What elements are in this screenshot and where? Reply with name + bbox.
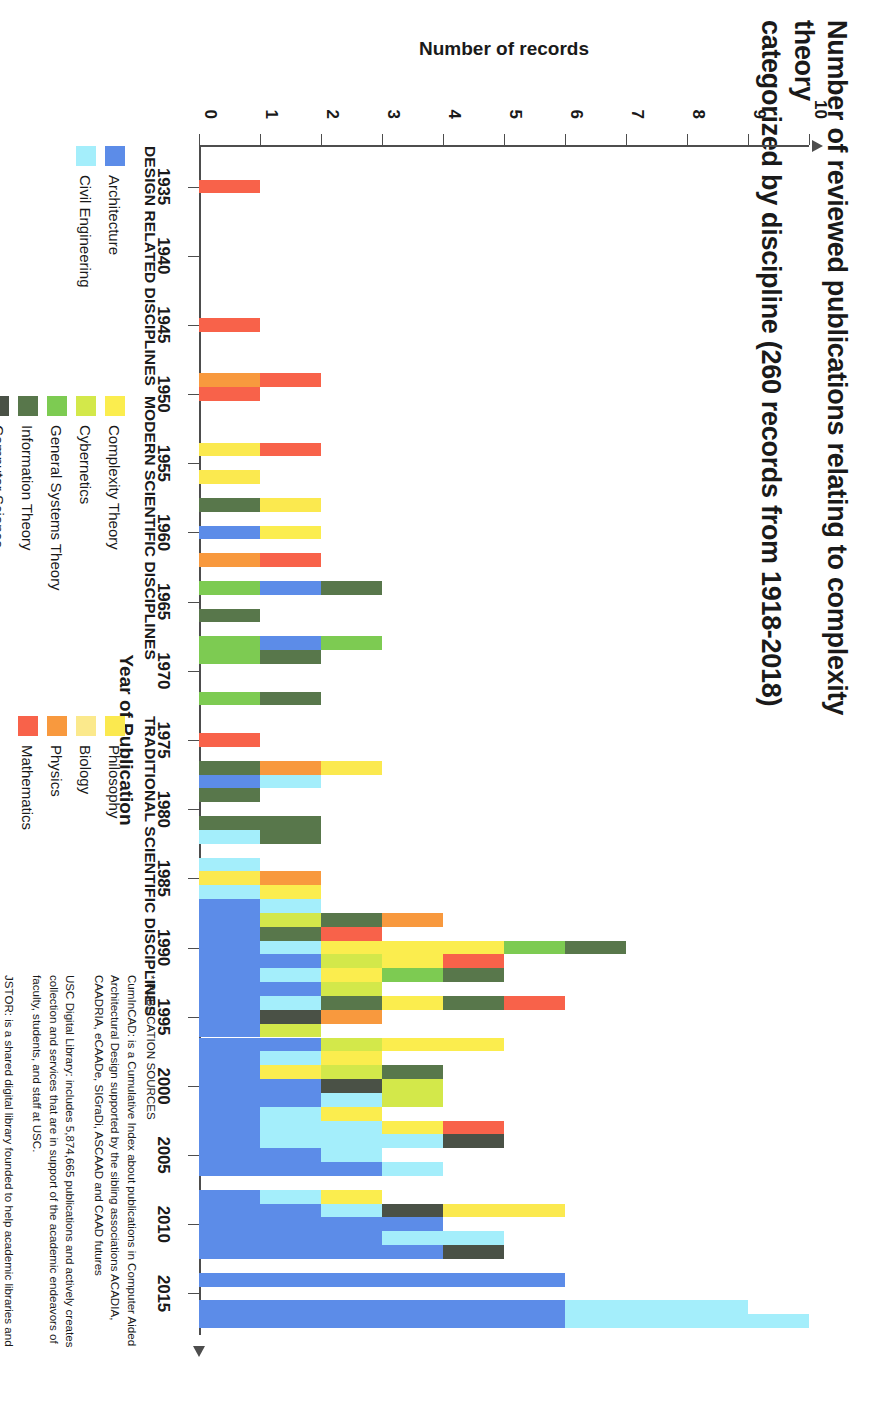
- publication-sources: * PUBLICATION SOURCESCumInCAD: is a Cumu…: [0, 975, 159, 1375]
- bar-segment: [199, 373, 260, 387]
- bar-segment: [443, 996, 504, 1010]
- bar-segment: [199, 1079, 321, 1093]
- bar: [199, 927, 382, 941]
- x-tick: [188, 602, 199, 603]
- bar-segment: [260, 1051, 321, 1065]
- bar-segment: [260, 443, 321, 457]
- y-tick-label: 5: [505, 110, 525, 119]
- bar: [199, 1314, 809, 1328]
- bar-segment: [199, 1148, 321, 1162]
- bar-segment: [321, 1038, 382, 1052]
- legend-swatch-icon: [105, 396, 125, 416]
- bar-segment: [321, 941, 504, 955]
- y-tick: [443, 134, 444, 145]
- bar-segment: [260, 927, 321, 941]
- x-tick: [188, 671, 199, 672]
- y-tick-label: 4: [444, 110, 464, 119]
- bar-segment: [565, 1314, 809, 1328]
- legend-swatch-icon: [0, 396, 9, 416]
- bar-segment: [199, 761, 260, 775]
- bar: [199, 1051, 382, 1065]
- bar-segment: [321, 996, 382, 1010]
- bar-segment: [260, 1024, 321, 1038]
- bar-segment: [199, 1107, 260, 1121]
- legend-item-label: Complexity Theory: [107, 425, 124, 550]
- sources-heading: * PUBLICATION SOURCES: [143, 975, 159, 1375]
- bar: [199, 581, 382, 595]
- bar: [199, 1065, 443, 1079]
- bar-segment: [260, 996, 321, 1010]
- y-tick: [809, 134, 810, 145]
- bar-segment: [199, 1134, 260, 1148]
- bar-segment: [199, 1038, 321, 1052]
- legend-item-label: Cybernetics: [78, 425, 95, 504]
- legend-item[interactable]: General Systems Theory: [47, 396, 67, 716]
- bar-segment: [199, 885, 260, 899]
- bar: [199, 871, 321, 885]
- x-tick: [188, 809, 199, 810]
- bar-segment: [382, 954, 443, 968]
- bar: [199, 1300, 748, 1314]
- bar: [199, 1079, 443, 1093]
- bar-segment: [199, 318, 260, 332]
- bar-segment: [321, 1190, 382, 1204]
- chart-canvas: Number of reviewed publications relating…: [0, 0, 869, 1403]
- bar-segment: [199, 180, 260, 194]
- bar: [199, 180, 260, 194]
- bar: [199, 761, 382, 775]
- y-tick: [748, 134, 749, 145]
- bar-segment: [199, 1051, 260, 1065]
- bar-segment: [260, 650, 321, 664]
- legend-item[interactable]: Computer Science: [0, 396, 9, 716]
- bar: [199, 1148, 382, 1162]
- bar-segment: [199, 1190, 260, 1204]
- bar: [199, 443, 321, 457]
- legend-group: MODERN SCIENTIFIC DISCIPLINESComplexity …: [0, 396, 159, 716]
- bar: [199, 1010, 382, 1024]
- bar-segment: [321, 761, 382, 775]
- x-tick: [188, 740, 199, 741]
- bar-segment: [199, 968, 260, 982]
- bar: [199, 373, 321, 387]
- bar-segment: [443, 1134, 504, 1148]
- bar-segment: [443, 1245, 504, 1259]
- bar-segment: [199, 581, 260, 595]
- legend-group: DESIGN RELATED DISCIPLINESArchitectureCi…: [67, 146, 159, 396]
- bar-segment: [504, 941, 565, 955]
- legend-item[interactable]: Information Theory: [18, 396, 38, 716]
- x-tick: [188, 1224, 199, 1225]
- bar-segment: [321, 982, 382, 996]
- bar-segment: [260, 498, 321, 512]
- x-tick: [188, 256, 199, 257]
- bar: [199, 692, 321, 706]
- legend-item[interactable]: Complexity Theory: [105, 396, 125, 716]
- legend-item-label: Philosophy: [107, 745, 124, 818]
- legend-item[interactable]: Cybernetics: [76, 396, 96, 716]
- legend-swatch-icon: [47, 716, 67, 736]
- bar: [199, 470, 260, 484]
- bar-segment: [199, 387, 260, 401]
- bar-segment: [199, 609, 260, 623]
- bar: [199, 941, 626, 955]
- legend-item[interactable]: Civil Engineering: [76, 146, 96, 396]
- y-tick: [626, 134, 627, 145]
- y-tick: [199, 134, 200, 145]
- y-tick-label: 6: [566, 110, 586, 119]
- bar: [199, 318, 260, 332]
- bar-segment: [565, 941, 626, 955]
- legend-item-label: Architecture: [107, 175, 124, 255]
- y-tick-label: 9: [749, 110, 769, 119]
- bar: [199, 1093, 443, 1107]
- x-tick: [188, 1086, 199, 1087]
- legend-swatch-icon: [105, 146, 125, 166]
- bar-segment: [382, 1065, 443, 1079]
- bar-segment: [199, 553, 260, 567]
- bar-segment: [199, 1273, 565, 1287]
- bar: [199, 982, 382, 996]
- bar-segment: [382, 1231, 504, 1245]
- bar-segment: [199, 692, 260, 706]
- bar: [199, 387, 260, 401]
- y-tick-label: 7: [627, 110, 647, 119]
- legend-item[interactable]: Architecture: [105, 146, 125, 396]
- bar-segment: [199, 913, 260, 927]
